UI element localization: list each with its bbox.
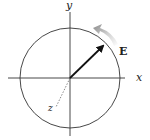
z-axis-label: z (48, 104, 53, 113)
e-vector-label: E (119, 46, 127, 57)
y-axis-label: y (66, 0, 72, 11)
x-axis-label: x (136, 72, 142, 83)
e-field-vector (70, 46, 103, 78)
polarization-diagram (0, 0, 150, 140)
z-axis (56, 78, 70, 107)
